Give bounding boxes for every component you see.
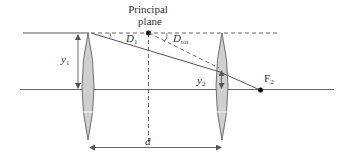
label-Dtot: Dtot <box>172 32 188 46</box>
label-D1: D1 <box>125 32 138 46</box>
label-F2: F2 <box>264 72 274 86</box>
principal-plane-label-line1: Principal <box>128 3 168 15</box>
label-y2: y2 <box>196 74 206 88</box>
lens-2 <box>216 33 228 140</box>
label-d: d <box>145 135 151 147</box>
principal-plane-label-line2: plane <box>138 15 162 27</box>
focal-point-F2 <box>258 88 263 93</box>
label-y1: y1 <box>60 53 70 67</box>
two-lens-system-diagram: Principal plane y1 y2 D1 Dtot F2 d <box>0 0 350 158</box>
refracted-ray <box>91 33 220 72</box>
principal-plane-point <box>146 31 151 36</box>
lens-1 <box>82 33 94 140</box>
